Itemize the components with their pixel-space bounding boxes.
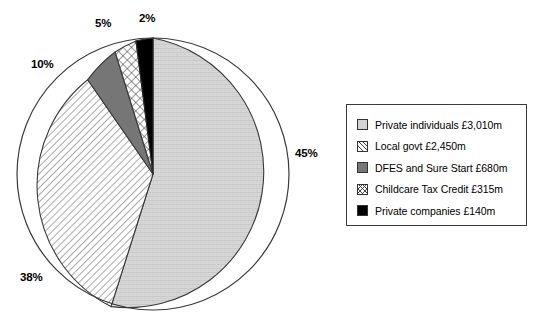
legend-swatch-icon-local-govt bbox=[357, 141, 368, 152]
pie-label-childcare-tax-credit: 5% bbox=[95, 17, 111, 29]
legend-item-childcare-tax-credit: Childcare Tax Credit £315m bbox=[347, 179, 526, 201]
legend-label-local-govt: Local govt £2,450m bbox=[375, 141, 466, 152]
pie-label-private-individuals: 45% bbox=[295, 147, 318, 159]
legend-label-private-individuals: Private individuals £3,010m bbox=[375, 120, 502, 131]
legend-item-private-companies: Private companies £140m bbox=[347, 200, 526, 222]
legend-swatch-icon-dfes-sure-start bbox=[357, 162, 368, 173]
pie-chart-figure: 45% 38% 10% 5% 2% Private individuals £3… bbox=[0, 0, 535, 327]
pie-label-private-companies: 2% bbox=[139, 12, 155, 24]
legend-swatch-icon-childcare-tax-credit bbox=[357, 184, 368, 195]
legend-swatch-icon-private-companies bbox=[357, 205, 368, 216]
legend-label-childcare-tax-credit: Childcare Tax Credit £315m bbox=[375, 184, 503, 195]
legend-item-local-govt: Local govt £2,450m bbox=[347, 136, 526, 158]
pie-label-local-govt: 38% bbox=[20, 271, 43, 283]
legend-label-private-companies: Private companies £140m bbox=[375, 206, 495, 217]
legend-label-dfes-sure-start: DFES and Sure Start £680m bbox=[375, 163, 507, 174]
legend-item-dfes-sure-start: DFES and Sure Start £680m bbox=[347, 157, 526, 179]
legend-item-private-individuals: Private individuals £3,010m bbox=[347, 114, 526, 136]
pie-label-dfes-sure-start: 10% bbox=[31, 58, 54, 70]
legend-swatch-icon-private-individuals bbox=[357, 119, 368, 130]
chart-legend: Private individuals £3,010m Local govt £… bbox=[346, 104, 527, 226]
